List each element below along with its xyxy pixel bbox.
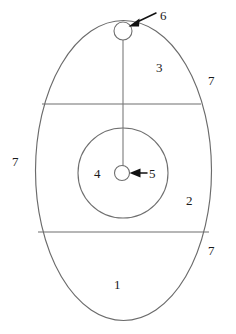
figure-label-4: 4 (94, 167, 101, 180)
figure-label-7-upper-right: 7 (208, 74, 215, 87)
figure-label-3: 3 (156, 61, 163, 74)
figure-label-6: 6 (160, 9, 167, 22)
arrow-to-label-5 (130, 169, 148, 178)
top-circle (114, 22, 132, 40)
figure-container: 1 2 3 4 5 6 7 7 7 (0, 0, 236, 334)
arrow-to-label-5-head (130, 169, 141, 178)
figure-label-5: 5 (149, 167, 156, 180)
figure-label-7-lower-right: 7 (208, 244, 215, 257)
figure-label-1: 1 (114, 278, 121, 291)
figure-label-7-left: 7 (12, 155, 19, 168)
figure-label-2: 2 (186, 194, 193, 207)
center-dot-circle (115, 166, 130, 181)
